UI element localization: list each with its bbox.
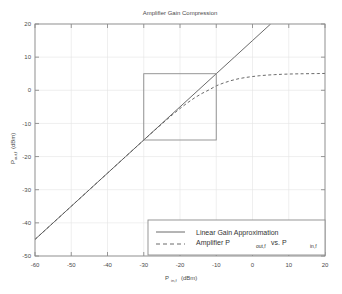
y-axis-label-unit: (dBm) [10,133,16,149]
y-axis-label-subscript: out,f [13,151,18,160]
x-axis-label-unit: (dBm) [181,275,197,281]
x-axis-label-subscript: in,f [171,278,177,283]
legend-box [148,220,325,255]
x-axis-label-base: P [165,275,169,281]
x-tick-label: -40 [103,262,112,268]
legend-label-amplifier-sub2: in,f [310,243,317,249]
x-tick-label: 20 [322,262,329,268]
legend-label-linear-gain: Linear Gain Approximation [196,229,279,237]
y-tick-label: -40 [22,220,31,226]
y-tick-label: -30 [22,187,31,193]
legend-label-amplifier-base: Amplifier P [196,239,230,247]
y-tick-label: 20 [24,21,31,27]
amplifier-gain-compression-chart: -60-50-40-30-20-1001020 -50-40-30-20-100… [0,0,342,294]
x-tick-label: -20 [176,262,185,268]
chart-legend[interactable]: Linear Gain Approximation Amplifier P ou… [148,220,325,255]
figure-container: -60-50-40-30-20-1001020 -50-40-30-20-100… [0,0,342,294]
x-tick-label: 10 [285,262,292,268]
y-tick-label: 10 [24,54,31,60]
x-tick-label: -60 [31,262,40,268]
legend-label-amplifier-mid: vs. P [271,239,287,246]
legend-label-amplifier-sub1: out,f [256,243,266,249]
x-tick-label: -50 [67,262,76,268]
y-tick-label: -20 [22,154,31,160]
y-tick-label: -50 [22,253,31,259]
y-tick-label: -10 [22,121,31,127]
chart-title: Amplifier Gain Compression [143,10,218,16]
x-tick-label: -30 [139,262,148,268]
x-tick-label: -10 [212,262,221,268]
